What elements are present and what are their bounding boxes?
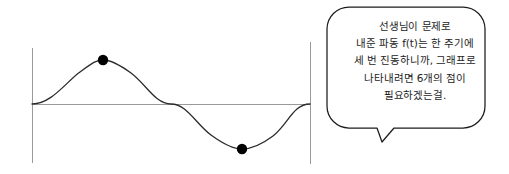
speech-bubble-text: 선생님이 문제로 내준 파동 f(t)는 한 주기에 세 번 진동하니까, 그래… [330, 18, 500, 104]
speech-bubble-line-4: 나타내려면 6개의 점이 [330, 70, 500, 87]
graph-svg [0, 0, 325, 174]
speech-bubble-line-5: 필요하겠는걸. [330, 87, 500, 104]
peak-point [98, 55, 108, 65]
speech-bubble-line-1: 선생님이 문제로 [330, 18, 500, 35]
trough-point [237, 144, 247, 154]
figure-root: 선생님이 문제로 내준 파동 f(t)는 한 주기에 세 번 진동하니까, 그래… [0, 0, 509, 174]
speech-bubble: 선생님이 문제로 내준 파동 f(t)는 한 주기에 세 번 진동하니까, 그래… [322, 2, 509, 150]
speech-bubble-line-2: 내준 파동 f(t)는 한 주기에 [330, 35, 500, 52]
sine-wave-graph [0, 0, 325, 174]
speech-bubble-line-3: 세 번 진동하니까, 그래프로 [330, 52, 500, 69]
